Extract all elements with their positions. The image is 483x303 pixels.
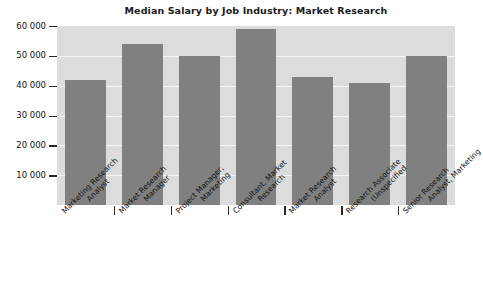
x-axis-tick-mark (341, 206, 342, 215)
x-axis-tick-mark (171, 206, 172, 215)
y-axis-tick-mark (49, 56, 57, 57)
x-axis-tick-mark (228, 206, 229, 215)
y-axis-tick-mark (49, 145, 57, 146)
y-axis-tick-label: 20 000 (0, 140, 46, 150)
y-axis-tick-label: 10 000 (0, 170, 46, 180)
y-axis-tick-mark (49, 116, 57, 117)
x-axis-tick-mark (114, 206, 115, 215)
x-axis-tick-mark (398, 206, 399, 215)
y-axis-tick-mark (49, 86, 57, 87)
y-axis-tick-label: 60 000 (0, 21, 46, 31)
y-axis-tick-label: 30 000 (0, 110, 46, 120)
y-axis-tick-label: 50 000 (0, 50, 46, 60)
y-axis-tick-mark (49, 26, 57, 27)
y-axis-tick-label: 40 000 (0, 80, 46, 90)
y-axis-tick-mark (49, 175, 57, 176)
x-axis-tick-mark (284, 206, 285, 215)
